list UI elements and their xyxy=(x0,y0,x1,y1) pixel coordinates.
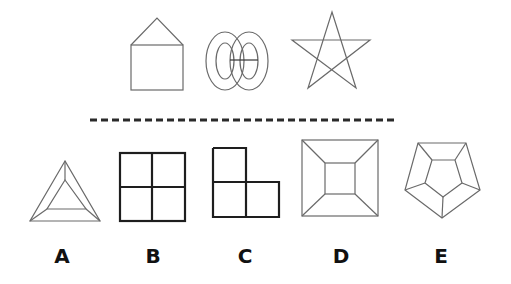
option-e-label[interactable]: E xyxy=(421,244,461,268)
option-c-label[interactable]: C xyxy=(225,244,265,268)
pentagram-figure xyxy=(292,12,370,88)
house-figure xyxy=(131,18,183,90)
option-c-figure[interactable] xyxy=(213,148,279,217)
option-a-label[interactable]: A xyxy=(42,244,82,268)
option-e-figure[interactable] xyxy=(405,143,480,218)
option-d-label[interactable]: D xyxy=(321,244,361,268)
option-b-label[interactable]: B xyxy=(133,244,173,268)
option-a-figure[interactable] xyxy=(30,161,100,221)
double-ring-figure xyxy=(206,32,268,90)
puzzle-canvas xyxy=(0,0,511,284)
option-b-figure[interactable] xyxy=(120,153,185,221)
option-d-figure[interactable] xyxy=(302,140,378,216)
